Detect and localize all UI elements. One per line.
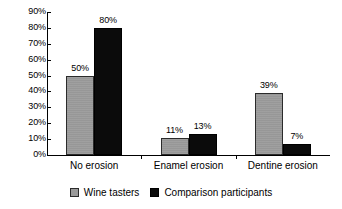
y-axis-tick-label: 90% xyxy=(6,7,46,16)
x-axis-category-label: Enamel erosion xyxy=(141,160,235,172)
bar xyxy=(255,93,283,155)
chart-legend: Wine tastersComparison participants xyxy=(0,187,342,198)
x-axis-line xyxy=(47,155,330,156)
y-axis-tick-label: 70% xyxy=(6,39,46,48)
bar xyxy=(66,76,94,155)
bar xyxy=(189,134,217,155)
bar-value-label: 80% xyxy=(88,16,128,25)
bar xyxy=(161,138,189,155)
bar xyxy=(283,144,311,155)
y-axis-tick-label: 0% xyxy=(6,150,46,159)
y-axis-tick-mark xyxy=(47,155,51,156)
bar-value-label: 7% xyxy=(277,132,317,141)
y-axis-tick-label: 50% xyxy=(6,71,46,80)
y-axis-tick-label: 10% xyxy=(6,134,46,143)
x-axis-tick-mark xyxy=(141,155,142,159)
legend-label: Wine tasters xyxy=(84,187,140,198)
bar xyxy=(94,28,122,155)
y-axis-tick-label: 60% xyxy=(6,55,46,64)
y-axis-tick-label: 80% xyxy=(6,23,46,32)
legend-swatch-icon xyxy=(70,188,79,197)
x-axis-category-label: No erosion xyxy=(47,160,141,172)
y-axis-tick-label: 40% xyxy=(6,86,46,95)
bar-value-label: 13% xyxy=(183,122,223,131)
legend-swatch-icon xyxy=(150,188,159,197)
y-axis-tick-label: 20% xyxy=(6,118,46,127)
x-axis-category-label: Dentine erosion xyxy=(236,160,330,172)
legend-item: Comparison participants xyxy=(150,187,272,198)
x-axis-tick-mark xyxy=(236,155,237,159)
bar-value-label: 39% xyxy=(249,81,289,90)
legend-label: Comparison participants xyxy=(164,187,272,198)
y-axis-tick-label: 30% xyxy=(6,102,46,111)
bar-chart: 90%80%70%60%50%40%30%20%10%0% 50%80%11%1… xyxy=(0,0,342,209)
legend-item: Wine tasters xyxy=(70,187,140,198)
plot-area: 50%80%11%13%39%7% xyxy=(47,12,330,155)
